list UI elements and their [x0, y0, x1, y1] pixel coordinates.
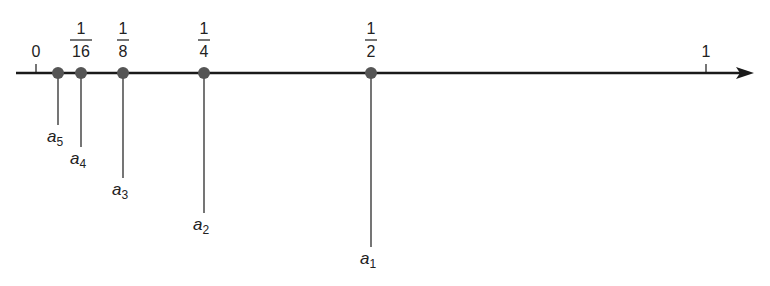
fraction-label: 12: [365, 20, 377, 60]
tick-label: 1: [702, 43, 711, 60]
fraction-label: 18: [117, 20, 129, 60]
point-label: a1: [360, 249, 376, 271]
sequence-points: a5116a418a314a212a1: [47, 20, 377, 271]
point-dot: [52, 67, 64, 79]
point-label: a4: [70, 149, 86, 171]
point-a2: 14a2: [193, 20, 210, 237]
point-dot: [117, 67, 129, 79]
point-dot: [75, 67, 87, 79]
fraction-numerator: 1: [119, 20, 128, 37]
point-label: a5: [47, 127, 63, 149]
tick-label: 0: [32, 43, 41, 60]
fraction-numerator: 1: [200, 20, 209, 37]
fraction-numerator: 1: [77, 20, 86, 37]
point-a4: 116a4: [70, 20, 92, 171]
fraction-denominator: 16: [72, 43, 90, 60]
point-dot: [365, 67, 377, 79]
point-label: a2: [193, 215, 209, 237]
point-a3: 18a3: [112, 20, 129, 202]
fraction-denominator: 4: [200, 43, 209, 60]
fraction-label: 14: [198, 20, 210, 60]
number-line-diagram: 01 a5116a418a314a212a1: [0, 0, 770, 286]
point-a1: 12a1: [360, 20, 377, 271]
fraction-label: 116: [70, 20, 92, 60]
tick-0: 0: [32, 43, 41, 73]
fraction-numerator: 1: [367, 20, 376, 37]
point-dot: [198, 67, 210, 79]
fraction-denominator: 2: [367, 43, 376, 60]
fraction-denominator: 8: [119, 43, 128, 60]
tick-1: 1: [702, 43, 711, 73]
point-a5: a5: [47, 67, 64, 149]
point-label: a3: [112, 180, 128, 202]
